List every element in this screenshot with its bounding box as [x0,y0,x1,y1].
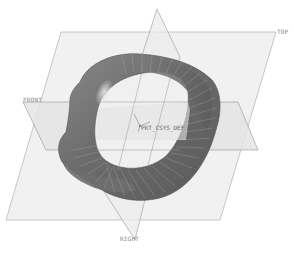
datum-plane-right-label[interactable]: RIGHT [120,235,139,242]
csys-label[interactable]: PRT_CSYS_DEF [141,124,184,131]
datum-plane-top-label[interactable]: TOP [277,28,288,35]
graphics-viewport[interactable]: TOP FRONT RIGHT PRT_CSYS_DEF [0,0,294,254]
datum-plane-front-label[interactable]: FRONT [23,96,42,103]
